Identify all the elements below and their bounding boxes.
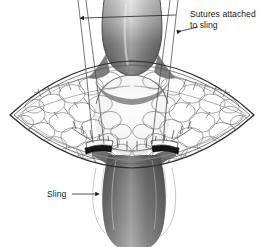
label-sling: Sling xyxy=(47,189,67,199)
surgical-illustration: Sutures attached to sling Sling xyxy=(0,0,264,247)
figure-container: Sutures attached to sling Sling xyxy=(0,0,264,247)
label-sutures-line2: to sling xyxy=(190,20,218,30)
label-sutures-line1: Sutures attached xyxy=(190,9,256,19)
